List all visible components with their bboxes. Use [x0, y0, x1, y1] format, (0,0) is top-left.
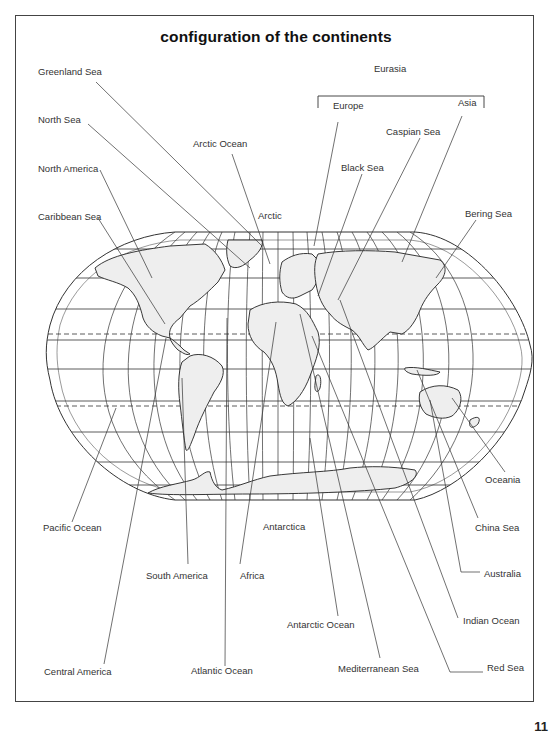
label-pacific-ocean: Pacific Ocean [43, 522, 102, 533]
label-greenland-sea: Greenland Sea [38, 66, 102, 77]
label-eurasia: Eurasia [374, 63, 406, 74]
label-arctic: Arctic [258, 210, 282, 221]
page-number: 11 [534, 719, 548, 734]
label-antarctica: Antarctica [263, 521, 305, 532]
label-indian-ocean: Indian Ocean [463, 615, 520, 626]
label-arctic-ocean: Arctic Ocean [193, 138, 247, 149]
label-north-sea: North Sea [38, 114, 81, 125]
label-asia: Asia [458, 97, 476, 108]
madagascar-shape [315, 375, 321, 392]
label-africa: Africa [240, 570, 264, 581]
label-red-sea: Red Sea [487, 662, 524, 673]
label-atlantic-ocean: Atlantic Ocean [191, 665, 253, 676]
label-south-america: South America [146, 570, 208, 581]
label-bering-sea: Bering Sea [465, 208, 512, 219]
label-caspian-sea: Caspian Sea [386, 126, 440, 137]
label-china-sea: China Sea [475, 522, 519, 533]
label-oceania: Oceania [485, 474, 520, 485]
label-mediterranean-sea: Mediterranean Sea [338, 663, 419, 674]
label-caribbean-sea: Caribbean Sea [38, 211, 101, 222]
label-north-america: North America [38, 163, 98, 174]
label-central-america: Central America [44, 666, 112, 677]
label-black-sea: Black Sea [341, 162, 384, 173]
label-europe: Europe [333, 100, 364, 111]
label-antarctic-ocean: Antarctic Ocean [287, 619, 355, 630]
label-australia: Australia [484, 568, 521, 579]
